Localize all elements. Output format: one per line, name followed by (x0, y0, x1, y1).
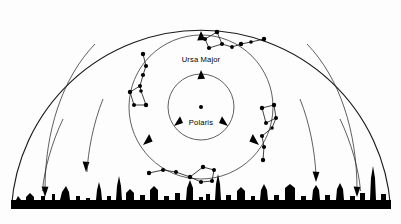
partial-star-trails-right (300, 44, 361, 197)
trail-left-inner (87, 99, 103, 172)
trail-right-outer-arrow-icon (313, 172, 320, 182)
star (272, 103, 276, 107)
star (144, 64, 148, 68)
star (270, 126, 274, 130)
inner-circle-arrow-top-icon (197, 70, 205, 79)
star (141, 52, 145, 56)
star (199, 180, 203, 184)
star (261, 158, 265, 162)
bottom-group-lines (149, 167, 214, 182)
star (138, 84, 142, 88)
inner-circle-arrow-left-icon (174, 116, 183, 126)
label-ursa-major: Ursa Major (182, 55, 221, 64)
star (203, 37, 207, 41)
star (174, 170, 178, 174)
star (141, 73, 145, 77)
star (147, 171, 151, 175)
star (188, 175, 192, 179)
sky-canvas: Ursa Major Polaris (0, 0, 401, 224)
star (230, 45, 234, 49)
star (274, 116, 278, 120)
trail-right-mid (307, 44, 357, 190)
star (144, 103, 148, 107)
partial-star-trails-left (42, 44, 103, 197)
label-polaris: Polaris (189, 118, 213, 127)
trail-right-mid-arrow-icon (354, 187, 361, 197)
middle-circle-arrow-left-icon (143, 134, 153, 145)
right-group-lines (262, 105, 276, 160)
star (201, 165, 205, 169)
star (161, 168, 165, 172)
star (249, 40, 253, 44)
inner-circle-arrow-right-icon (219, 116, 228, 126)
star (260, 106, 264, 110)
constellation-bottom-group (147, 165, 216, 184)
trail-left-outer (43, 119, 64, 191)
horizon-ground-band (11, 200, 391, 209)
star (139, 89, 143, 93)
constellation-left-chain (128, 52, 148, 107)
polaris-star (199, 105, 203, 109)
star (220, 42, 224, 46)
star (264, 121, 268, 125)
middle-circle-arrow-right-icon (249, 134, 259, 145)
star-trail-diagram: Ursa Major Polaris (0, 0, 401, 224)
star (262, 145, 266, 149)
trail-left-outer-arrow-icon (83, 162, 90, 172)
town-skyline (11, 166, 391, 209)
star (262, 37, 266, 41)
star (210, 179, 214, 183)
star (132, 103, 136, 107)
left-chain-lines (130, 54, 146, 105)
star (260, 134, 264, 138)
star (128, 90, 132, 94)
star (215, 30, 220, 35)
trail-right-outer (300, 99, 316, 176)
star (207, 46, 211, 50)
star (212, 168, 216, 172)
constellation-right-group (260, 103, 278, 162)
ursa-major-lines (205, 32, 264, 48)
star (239, 42, 243, 46)
